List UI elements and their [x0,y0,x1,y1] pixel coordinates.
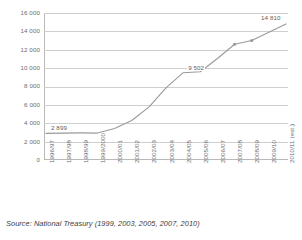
data-point-marker [250,39,253,42]
plot-area: 2 899 9 502 14 810 [44,13,288,160]
data-label: 9 502 [187,64,205,71]
x-tick-label: 2007/08 [237,140,243,163]
x-tick-label: 1999/2000 [100,133,106,163]
data-label: 14 810 [260,14,282,21]
y-tick-label: 6 000 [0,102,40,108]
source-note: Source: National Treasury (1999, 2003, 2… [6,219,200,228]
y-tick-label: 8 000 [0,83,40,89]
series-line-svg [44,13,288,160]
x-tick-label: 2001/02 [134,140,140,163]
x-tick-label: 1997/98 [66,140,72,163]
y-tick-label: 0 [0,157,40,163]
y-tick-label: 12 000 [0,47,40,53]
series-line [46,24,286,133]
x-tick-label: 2008/09 [254,140,260,163]
y-tick-label: 2 000 [0,139,40,145]
data-point-marker [233,43,236,46]
x-tick-label: 2009/10 [271,140,277,163]
x-tick-label: 2003/04 [169,140,175,163]
y-tick-label: 10 000 [0,65,40,71]
x-tick-label: 2010/11 (est.) [289,124,295,163]
data-label: 2 899 [50,124,68,131]
y-tick-label: 14 000 [0,28,40,34]
x-tick-label: 2005/06 [203,140,209,163]
x-tick-label: 2004/05 [186,140,192,163]
y-tick-label: 16 000 [0,10,40,16]
x-tick-label: 2006/07 [220,140,226,163]
chart-figure: 16 000 14 000 12 000 10 000 8 000 6 000 … [0,0,302,240]
x-tick-label: 1998/99 [83,140,89,163]
x-tick-label: 1996/97 [49,140,55,163]
y-tick-label: 4 000 [0,120,40,126]
x-tick-label: 2002/03 [151,140,157,163]
x-tick-label: 2000/01 [117,140,123,163]
